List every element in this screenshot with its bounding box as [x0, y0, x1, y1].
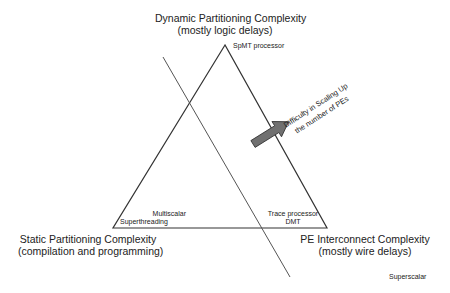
right-title: PE Interconnect Complexity — [295, 233, 435, 245]
divider-line — [163, 57, 290, 277]
left-subtitle: (compilation and programming) — [18, 245, 158, 257]
right-subtitle: (mostly wire delays) — [295, 245, 435, 257]
left-title: Static Partitioning Complexity — [18, 233, 158, 245]
trace-processor-label: Trace processor — [266, 210, 320, 218]
left-examples: Multiscalar Superthreading — [120, 210, 186, 226]
left-vertex-label: Static Partitioning Complexity (compilat… — [18, 233, 158, 257]
top-subtitle: (mostly logic delays) — [155, 24, 295, 36]
spmt-label: SpMT processor — [233, 42, 284, 50]
superscalar-label: Superscalar — [389, 273, 426, 281]
superthreading-label: Superthreading — [120, 218, 186, 226]
dmt-label: DMT — [266, 218, 320, 226]
top-title: Dynamic Partitioning Complexity — [155, 12, 295, 24]
top-vertex-label: Dynamic Partitioning Complexity (mostly … — [155, 12, 295, 36]
right-vertex-label: PE Interconnect Complexity (mostly wire … — [295, 233, 435, 257]
multiscalar-label: Multiscalar — [120, 210, 186, 218]
right-examples: Trace processor DMT — [266, 210, 320, 226]
